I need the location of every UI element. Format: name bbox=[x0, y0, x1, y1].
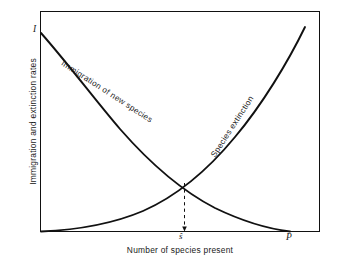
species-pool-label: P bbox=[286, 232, 292, 242]
plot-frame bbox=[41, 12, 320, 232]
y-axis-title: Immigration and extinction rates bbox=[26, 11, 40, 232]
immigration-intercept-label: I bbox=[33, 24, 36, 34]
x-axis-title: Number of species present bbox=[40, 245, 320, 255]
plot-area bbox=[0, 0, 339, 263]
figure-container: Immigration and extinction rates Number … bbox=[0, 0, 339, 263]
equilibrium-label: ŝ bbox=[179, 231, 183, 241]
